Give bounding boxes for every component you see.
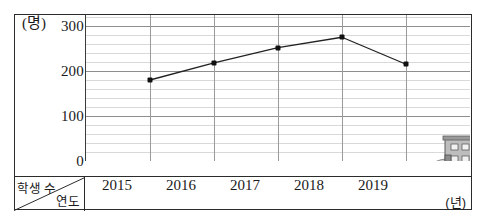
y-axis-tick-labels: 300 200 100 0 (16, 15, 84, 161)
y-tick-200: 200 (22, 64, 84, 79)
data-point-2018 (340, 35, 345, 40)
school-building-illustration (431, 119, 470, 161)
x-tick-2018: 2018 (294, 178, 324, 193)
corner-header-cell: 학생 수 연도 (14, 177, 85, 211)
plot-area (85, 15, 470, 161)
y-tick-0: 0 (22, 154, 84, 169)
data-point-2015 (148, 78, 153, 83)
y-tick-100: 100 (22, 109, 84, 124)
corner-col-label: 연도 (56, 191, 80, 210)
corner-row-label: 학생 수 (17, 178, 56, 197)
x-tick-2019: 2019 (358, 178, 388, 193)
data-markers (86, 15, 470, 161)
data-point-2017 (276, 45, 281, 50)
data-point-2016 (212, 60, 217, 65)
y-tick-300: 300 (22, 19, 84, 34)
chart-figure: (명) 300 200 100 0 (0, 0, 487, 224)
x-tick-2017: 2017 (230, 178, 260, 193)
x-tick-2015: 2015 (102, 178, 132, 193)
data-point-2019 (404, 62, 409, 67)
x-tick-2016: 2016 (166, 178, 196, 193)
x-axis-unit-label: (년) (445, 196, 466, 209)
axis-header-band: 학생 수 연도 2015 2016 2017 2018 2019 (년) (14, 176, 472, 210)
